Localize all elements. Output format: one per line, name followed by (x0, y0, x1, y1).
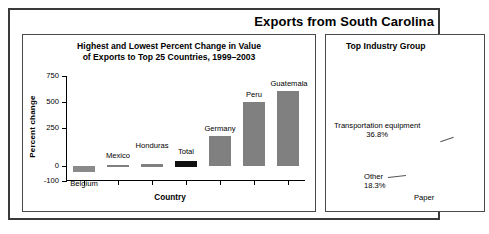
pie-leader-line-other (388, 175, 406, 178)
pie-slice-name-paper: Paper (414, 193, 434, 202)
bar-peru (243, 102, 265, 166)
y-tick-750 (62, 76, 67, 77)
pie-slice-label-other: Other 18.3% (364, 172, 386, 190)
y-tick-label-250: 250 (33, 124, 59, 132)
x-tick-total (186, 181, 187, 185)
bar-label-germany: Germany (194, 125, 246, 133)
bar-total (175, 161, 197, 167)
bar-label-guatemala: Guatemala (261, 80, 317, 88)
bar-honduras (141, 164, 163, 167)
bar-belgium (73, 166, 95, 172)
bar-chart-plot: Percent change 750 500 250 0 -1 (23, 35, 317, 213)
bar-label-total: Total (165, 148, 207, 156)
pie-slice-name-other: Other (364, 172, 383, 181)
x-tick-honduras (152, 181, 153, 185)
bar-guatemala (277, 91, 299, 166)
bar-chart-panel: Highest and Lowest Percent Change in Val… (22, 34, 316, 212)
pie-leader-line-transportation-equipment (440, 137, 454, 142)
x-tick-peru (254, 181, 255, 185)
y-tick-label-500: 500 (33, 98, 59, 106)
document-header: Exports from South Carolina (10, 10, 438, 32)
x-tick-germany (220, 181, 221, 185)
y-tick-500 (62, 102, 67, 103)
pie-slice-pct-transportation-equipment: 36.8% (334, 130, 420, 139)
pie-slice-label-paper: Paper (414, 193, 434, 202)
y-tick-label-0: 0 (33, 162, 59, 170)
bar-label-peru: Peru (233, 91, 275, 99)
pie-slice-name-transportation-equipment: Transportation equipment (334, 121, 420, 130)
y-tick-label-neg100: -100 (33, 177, 59, 185)
page-title: Exports from South Carolina (254, 14, 434, 29)
bar-mexico (107, 165, 129, 167)
bar-label-mexico: Mexico (95, 152, 141, 160)
industry-group-panel: Top Industry Group Transportation equipm… (325, 34, 485, 212)
y-tick-0 (62, 166, 67, 167)
bar-label-belgium: Belgium (61, 180, 107, 188)
x-tick-guatemala (288, 181, 289, 185)
pie-slice-label-transportation-equipment: Transportation equipment 36.8% (334, 121, 420, 139)
x-axis-title: Country (23, 193, 317, 202)
pie-slice-pct-other: 18.3% (364, 181, 386, 190)
pie-chart-area: Transportation equipment 36.8% Other 18.… (326, 35, 486, 213)
x-tick-mexico (118, 181, 119, 185)
bar-germany (209, 136, 231, 166)
y-tick-250 (62, 128, 67, 129)
y-tick-label-750: 750 (33, 72, 59, 80)
